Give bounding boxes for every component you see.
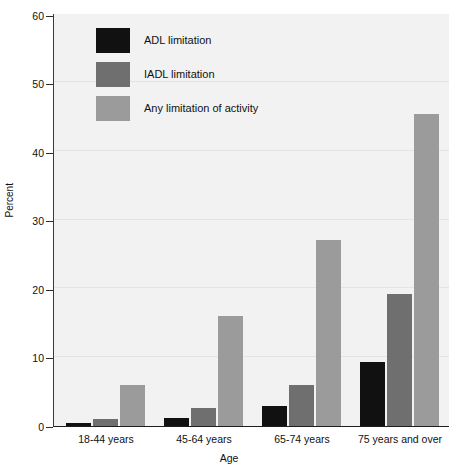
y-tick-mark-10 — [46, 358, 53, 359]
x-tick-label-75-years-and-over: 75 years and over — [358, 433, 442, 445]
y-tick-mark-30 — [46, 221, 53, 222]
legend-label-adl: ADL limitation — [144, 34, 211, 46]
y-tick-mark-60 — [46, 16, 53, 17]
y-tick-mark-50 — [46, 84, 53, 85]
bar-adl-75-years-and-over — [360, 362, 385, 426]
y-tick-label-0: 0 — [18, 421, 44, 433]
bar-any-18-44-years — [120, 385, 145, 426]
legend-label-iadl: IADL limitation — [144, 68, 215, 80]
bar-chart-figure: Percent 0 10 20 30 40 50 60 — [0, 0, 458, 471]
y-tick-mark-0 — [46, 427, 53, 428]
bar-any-45-64-years — [218, 316, 243, 426]
legend-label-any: Any limitation of activity — [144, 102, 258, 114]
bar-adl-45-64-years — [164, 418, 189, 426]
x-tick-label-65-74-years: 65-74 years — [274, 433, 329, 445]
y-tick-label-10: 10 — [18, 352, 44, 364]
plot-area: ADL limitation IADL limitation Any limit… — [53, 14, 449, 427]
legend-swatch-any — [96, 96, 130, 121]
y-tick-label-50: 50 — [18, 78, 44, 90]
y-tick-label-30: 30 — [18, 215, 44, 227]
legend-swatch-adl — [96, 28, 130, 53]
y-axis-title: Percent — [4, 204, 15, 218]
bar-adl-65-74-years — [262, 406, 287, 426]
x-tick-label-45-64-years: 45-64 years — [176, 433, 231, 445]
y-tick-mark-40 — [46, 153, 53, 154]
y-tick-label-60: 60 — [18, 10, 44, 22]
bar-iadl-45-64-years — [191, 408, 216, 426]
legend-swatch-iadl — [96, 62, 130, 87]
bar-any-65-74-years — [316, 240, 341, 426]
x-tick-label-18-44-years: 18-44 years — [78, 433, 133, 445]
y-tick-label-20: 20 — [18, 284, 44, 296]
y-tick-label-40: 40 — [18, 147, 44, 159]
bar-adl-18-44-years — [66, 423, 91, 426]
bar-iadl-75-years-and-over — [387, 294, 412, 426]
y-tick-mark-20 — [46, 290, 53, 291]
bar-any-75-years-and-over — [414, 114, 439, 427]
bar-iadl-65-74-years — [289, 385, 314, 426]
x-axis-title: Age — [0, 452, 458, 464]
bar-iadl-18-44-years — [93, 419, 118, 426]
